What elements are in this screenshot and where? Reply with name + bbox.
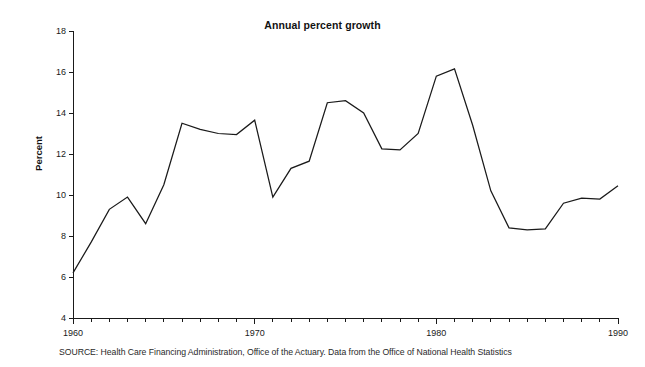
- y-tick-label: 12: [56, 149, 66, 159]
- y-axis: 4681012141618: [56, 26, 73, 323]
- data-series-group: [73, 69, 618, 273]
- x-tick-label: 1970: [245, 328, 265, 338]
- chart-figure: Annual percent growth Percent 4681012141…: [0, 0, 645, 367]
- y-tick-label: 4: [61, 313, 66, 323]
- y-tick-label: 10: [56, 190, 66, 200]
- x-axis: 1960197019801990: [63, 318, 628, 338]
- y-tick-label: 18: [56, 26, 66, 36]
- source-note: SOURCE: Health Care Financing Administra…: [59, 347, 512, 357]
- x-tick-label: 1960: [63, 328, 83, 338]
- y-tick-label: 6: [61, 272, 66, 282]
- y-tick-label: 16: [56, 67, 66, 77]
- x-tick-label: 1980: [426, 328, 446, 338]
- x-tick-label: 1990: [608, 328, 628, 338]
- data-line-annual-percent-growth: [73, 69, 618, 273]
- line-chart-plot: 4681012141618 1960197019801990: [0, 0, 645, 367]
- y-tick-label: 14: [56, 108, 66, 118]
- y-tick-label: 8: [61, 231, 66, 241]
